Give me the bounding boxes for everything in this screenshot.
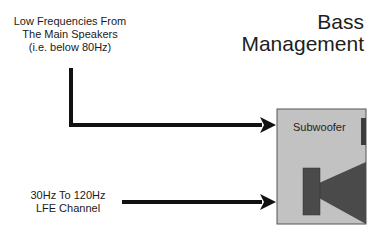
diagram-canvas	[0, 0, 386, 236]
main-speakers-arrow	[69, 68, 276, 133]
speaker-magnet-icon	[303, 168, 320, 215]
lfe-arrow	[122, 194, 276, 210]
port-slot	[361, 118, 366, 145]
subwoofer-label: Subwoofer	[293, 121, 346, 133]
